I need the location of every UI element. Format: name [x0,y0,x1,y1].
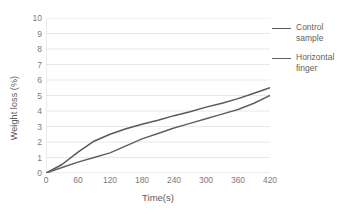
legend-line-swatch-icon [272,24,291,33]
x-tick-label: 360 [225,176,251,185]
y-tick-label: 10 [26,14,42,23]
legend-label: Horizontal finger [296,52,348,73]
x-axis-title: Time(s) [46,192,270,203]
x-tick-label: 60 [65,176,91,185]
y-axis-title-text: Weight loss (%) [9,76,19,140]
x-tick-label: 240 [161,176,187,185]
y-tick-label: 6 [26,76,42,85]
y-tick-label: 3 [26,123,42,132]
chart-legend: Control sample Horizontal finger [272,22,352,82]
legend-line-swatch-icon [272,54,291,63]
legend-label: Control sample [296,22,348,43]
line-chart: Weight loss (%) 10 9 8 7 6 5 4 3 2 1 0 0… [0,0,353,216]
y-tick-label: 8 [26,45,42,54]
series-line-horizontal-finger [46,96,270,174]
x-tick-label: 0 [33,176,59,185]
series-line-control-sample [46,88,270,173]
x-tick-label: 180 [129,176,155,185]
y-tick-label: 5 [26,92,42,101]
legend-item-control-sample: Control sample [272,22,352,43]
x-axis-tick-labels: 0 60 120 180 240 300 360 420 [46,176,270,188]
legend-item-horizontal-finger: Horizontal finger [272,52,352,73]
gridlines [46,18,270,158]
y-tick-label: 2 [26,138,42,147]
x-tick-label: 120 [97,176,123,185]
x-tick-label: 420 [257,176,283,185]
x-axis-title-text: Time(s) [142,192,174,203]
y-tick-label: 7 [26,61,42,70]
y-axis-tick-labels: 10 9 8 7 6 5 4 3 2 1 0 [22,18,42,173]
y-tick-label: 4 [26,107,42,116]
y-tick-label: 1 [26,154,42,163]
plot-area [46,18,270,173]
y-tick-label: 9 [26,30,42,39]
x-tick-label: 300 [193,176,219,185]
